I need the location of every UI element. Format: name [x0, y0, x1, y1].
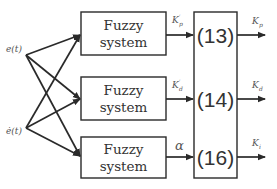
svg-text:p: p: [259, 21, 263, 29]
input-label-edot: ė(t): [6, 126, 22, 136]
fuzzy-block-2-line1: Fuzzy: [104, 82, 144, 98]
label-kp: K p: [251, 16, 263, 29]
equation-block: (13) (14) (16): [194, 12, 237, 178]
fuzzy-pid-gain-diagram: e(t) ė(t) Fuzzy system Fuzzy system Fuzz: [0, 0, 277, 189]
fuzzy-block-1-line2: system: [100, 34, 148, 50]
fuzzy-system-block-3: Fuzzy system: [81, 137, 166, 178]
label-kd: K d: [251, 80, 263, 92]
fuzzy-system-block-1: Fuzzy system: [81, 12, 166, 55]
arrow-e-to-fuzzy3: [26, 55, 80, 156]
arrow-e-to-fuzzy2: [26, 55, 80, 99]
fuzzy-block-3-line2: system: [100, 158, 148, 174]
fuzzy-block-1-line1: Fuzzy: [104, 17, 144, 33]
label-kp-prime: K ′ p: [171, 13, 183, 28]
svg-text:i: i: [259, 143, 261, 150]
fuzzy-system-block-2: Fuzzy system: [81, 77, 166, 120]
label-kd-prime: K ′ d: [171, 78, 183, 92]
edot-fanout-arrows: [26, 35, 80, 156]
e-fanout-arrows: [26, 35, 80, 156]
svg-text:α: α: [175, 138, 184, 153]
output-arrows: [237, 35, 265, 157]
label-alpha: α: [175, 138, 184, 153]
svg-text:p: p: [179, 20, 183, 28]
input-label-e: e(t): [6, 44, 22, 54]
equation-ref-14: (14): [197, 88, 234, 111]
label-ki: K i: [251, 138, 261, 150]
arrow-e-to-fuzzy1: [26, 35, 80, 55]
fuzzy-block-3-line1: Fuzzy: [104, 141, 144, 157]
equation-ref-13: (13): [197, 24, 234, 47]
svg-text:′: ′: [179, 78, 181, 85]
equation-ref-16: (16): [197, 146, 234, 169]
svg-text:d: d: [259, 85, 263, 92]
svg-text:′: ′: [179, 13, 181, 20]
fuzzy-block-2-line2: system: [100, 99, 148, 115]
svg-text:d: d: [179, 85, 183, 92]
